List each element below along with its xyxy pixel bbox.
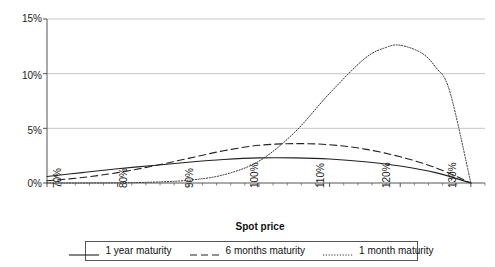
y-axis-ticks — [43, 19, 47, 183]
series-line-2 — [47, 45, 471, 183]
data-series — [47, 45, 471, 183]
chart-container: 15% 10% 5% 0% 70% 80% 90% 100% 110% 120%… — [0, 0, 495, 267]
series-line-1 — [47, 144, 471, 183]
axis-lines — [47, 19, 485, 183]
x-axis-ticks — [47, 183, 485, 187]
series-line-0 — [47, 158, 471, 183]
gridlines — [47, 19, 485, 128]
plot-area — [0, 0, 495, 267]
